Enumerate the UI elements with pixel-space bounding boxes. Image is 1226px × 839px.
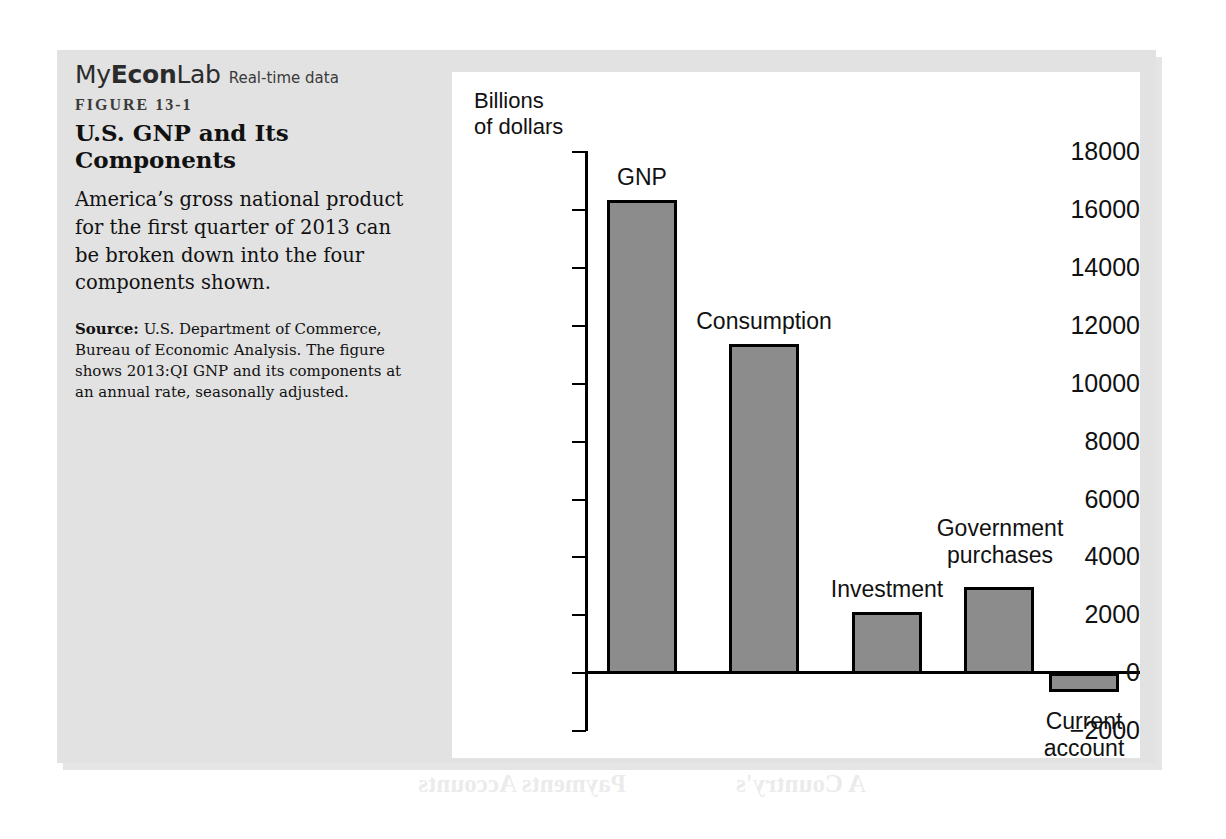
bar-label-government-purchases: Government purchases <box>925 515 1075 569</box>
figure-description: America’s gross national product for the… <box>75 186 420 297</box>
brand-part-econ: Econ <box>111 60 177 89</box>
y-tick-6000 <box>572 499 586 501</box>
y-tick-label-8000: 8000 <box>1028 427 1140 456</box>
bar-investment[interactable] <box>852 612 922 674</box>
chart-plot-area: Billionsof dollars 18000 16000 14000 120… <box>452 72 1140 758</box>
y-tick-12000 <box>572 325 586 327</box>
y-tick-10000 <box>572 383 586 385</box>
y-tick-4000 <box>572 556 586 558</box>
y-tick-2000 <box>572 614 586 616</box>
figure-caption-column: MyEconLab Real-time data FIGURE 13-1 U.S… <box>75 60 435 403</box>
y-tick-label-2000: 2000 <box>1028 600 1140 629</box>
figure-number: FIGURE 13-1 <box>75 96 435 114</box>
bleed-line: A Country's <box>736 770 866 798</box>
bar-current-account[interactable] <box>1049 673 1119 692</box>
figure-card: MyEconLab Real-time data FIGURE 13-1 U.S… <box>57 50 1156 763</box>
bar-label-current-account: Current account <box>1019 708 1149 762</box>
bar-label-investment: Investment <box>807 576 967 603</box>
y-tick-minus2000 <box>572 730 586 732</box>
y-tick-label-18000: 18000 <box>1028 137 1140 166</box>
bar-consumption[interactable] <box>729 344 799 674</box>
bar-label-gnp: GNP <box>582 164 702 191</box>
y-tick-8000 <box>572 441 586 443</box>
y-axis-title: Billionsof dollars <box>474 88 563 140</box>
source-label: Source: <box>75 320 139 338</box>
y-tick-16000 <box>572 209 586 211</box>
brand-part-my: My <box>75 60 111 89</box>
bar-label-consumption: Consumption <box>689 308 839 335</box>
brand-tagline: Real-time data <box>229 69 339 87</box>
figure-title: U.S. GNP and Its Components <box>75 120 375 173</box>
myeconlab-brandline: MyEconLab Real-time data <box>75 60 435 89</box>
y-tick-0 <box>572 672 586 674</box>
figure-source: Source: U.S. Department of Commerce, Bur… <box>75 319 415 403</box>
y-tick-label-16000: 16000 <box>1028 195 1140 224</box>
bar-gnp[interactable] <box>607 200 677 674</box>
bleed-line: Payments Accounts <box>418 770 626 798</box>
bar-government-purchases[interactable] <box>964 587 1034 674</box>
brand-part-lab: Lab <box>176 60 220 89</box>
y-tick-18000 <box>572 151 586 153</box>
y-tick-label-12000: 12000 <box>1028 311 1140 340</box>
y-tick-label-14000: 14000 <box>1028 253 1140 282</box>
y-tick-label-6000: 6000 <box>1028 485 1140 514</box>
y-tick-14000 <box>572 267 586 269</box>
y-tick-label-10000: 10000 <box>1028 369 1140 398</box>
chart-panel: Billionsof dollars 18000 16000 14000 120… <box>452 72 1140 758</box>
myeconlab-logo: MyEconLab <box>75 60 221 89</box>
